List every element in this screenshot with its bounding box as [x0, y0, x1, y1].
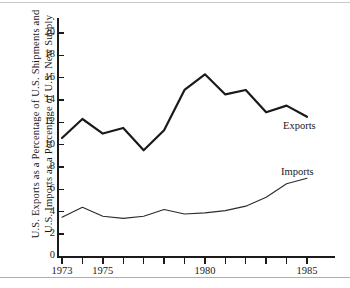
x-axis-tick: [102, 257, 103, 264]
x-axis-tick: [82, 257, 83, 264]
x-axis-tick: [225, 257, 226, 264]
y-axis-tick: [57, 189, 64, 190]
series-label-imports: Imports: [281, 166, 314, 177]
x-axis-tick: [123, 257, 124, 264]
x-axis-tick-label: 1975: [83, 265, 123, 276]
x-axis-tick: [163, 257, 164, 264]
x-axis-line: [57, 256, 335, 258]
y-axis-tick-label: 8: [25, 160, 55, 171]
x-axis-tick: [286, 257, 287, 264]
y-axis-tick: [57, 211, 64, 212]
y-axis-tick-label: 0: [25, 249, 55, 260]
y-axis-tick-label: 6: [25, 182, 55, 193]
bottom-rule: [0, 277, 350, 278]
y-axis-tick: [57, 122, 64, 123]
y-axis-tick-label: 18: [25, 48, 55, 59]
y-axis-tick-label: 2: [25, 227, 55, 238]
x-axis-tick-label: 1980: [185, 265, 225, 276]
y-axis-tick-label: 10: [25, 138, 55, 149]
y-axis-tick-label: 16: [25, 71, 55, 82]
y-axis-tick: [57, 233, 64, 234]
y-axis-tick: [57, 55, 64, 56]
y-axis-tick: [57, 77, 64, 78]
y-axis-tick-label: 20: [25, 26, 55, 37]
x-axis-tick-label: 1973: [42, 265, 82, 276]
y-axis-tick-label: 4: [25, 205, 55, 216]
x-axis-tick: [245, 257, 246, 264]
x-axis-tick-label: 1985: [287, 265, 327, 276]
x-axis-tick: [204, 257, 205, 264]
y-axis-tick: [57, 166, 64, 167]
y-axis-tick-label: 14: [25, 93, 55, 104]
chart-figure: U.S. Exports as a Percentage of U.S. Shi…: [0, 0, 350, 288]
y-axis-tick: [57, 32, 64, 33]
y-axis-tick: [57, 144, 64, 145]
x-axis-tick: [184, 257, 185, 264]
x-axis-tick: [61, 257, 62, 264]
x-axis-tick: [143, 257, 144, 264]
x-axis-tick: [306, 257, 307, 264]
series-label-exports: Exports: [283, 120, 316, 131]
series-line-imports: [62, 178, 307, 218]
y-axis-tick: [57, 99, 64, 100]
x-axis-tick: [265, 257, 266, 264]
series-line-exports: [62, 74, 307, 150]
top-rule: [0, 2, 350, 3]
y-axis-tick-label: 12: [25, 115, 55, 126]
